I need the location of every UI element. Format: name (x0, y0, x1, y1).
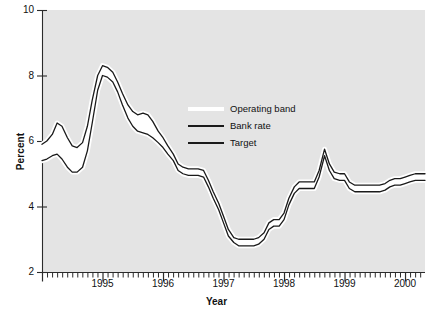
y-tick-label: 6 (4, 136, 34, 146)
x-tick-label: 1995 (78, 278, 128, 289)
y-tick-label: 8 (4, 71, 34, 81)
legend-item: Bank rate (188, 120, 296, 131)
legend-label: Target (230, 137, 256, 148)
legend-label: Bank rate (230, 120, 271, 131)
x-tick-label: 2000 (380, 278, 430, 289)
x-tick-label: 1998 (259, 278, 309, 289)
x-tick-label: 1999 (320, 278, 370, 289)
interest-rate-chart: Percent Year 246810 19951996199719981999… (0, 0, 433, 319)
legend-swatch-line (188, 142, 224, 144)
x-tick-label: 1997 (199, 278, 249, 289)
legend-label: Operating band (230, 103, 296, 114)
plot-canvas (0, 0, 433, 319)
legend-swatch-band (188, 107, 224, 111)
legend-swatch-line (188, 125, 224, 127)
x-tick-label: 1996 (138, 278, 188, 289)
chart-legend: Operating bandBank rateTarget (188, 103, 296, 148)
y-tick-label: 10 (4, 5, 34, 15)
y-tick-label: 2 (4, 267, 34, 277)
legend-item: Operating band (188, 103, 296, 114)
y-tick-label: 4 (4, 202, 34, 212)
legend-item: Target (188, 137, 296, 148)
x-axis-title: Year (0, 296, 433, 307)
y-axis-title: Percent (15, 112, 26, 192)
